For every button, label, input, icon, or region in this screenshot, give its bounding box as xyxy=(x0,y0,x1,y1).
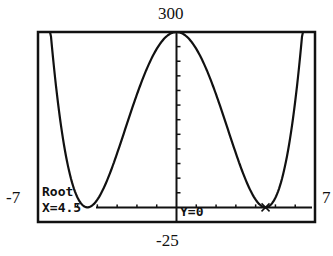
x-readout: X=4.5 xyxy=(42,200,81,215)
y-readout: Y=0 xyxy=(180,204,204,219)
axes xyxy=(78,32,315,222)
graph-screen: Root X=4.5 Y=0 xyxy=(0,0,333,256)
root-mode-label: Root xyxy=(42,184,73,199)
